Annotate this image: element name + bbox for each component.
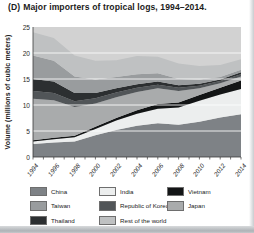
- legend-swatch-republic-of-korea: [99, 201, 116, 211]
- legend-label: Rest of the world: [120, 217, 166, 224]
- legend-item-india: India: [99, 184, 169, 199]
- legend-swatch-japan: [167, 201, 184, 211]
- page-edge-bottom: [0, 226, 254, 233]
- y-tick-label-5: 5: [14, 128, 30, 135]
- legend-swatch-vietnam: [167, 187, 184, 197]
- legend-label: Taiwan: [51, 202, 70, 209]
- textbook-page: (D)Major importers of tropical logs, 199…: [0, 0, 254, 233]
- legend-swatch-india: [99, 187, 116, 197]
- y-tick-label-15: 15: [14, 76, 30, 83]
- y-axis-label: Volume (millions of cubic meters): [4, 35, 11, 150]
- legend-label: Vietnam: [188, 188, 211, 195]
- y-tick-label-10: 10: [14, 102, 30, 109]
- legend-label: India: [120, 188, 133, 195]
- legend-swatch-china: [30, 187, 47, 197]
- legend-item-china: China: [30, 184, 75, 199]
- page-edge-right: [249, 0, 254, 226]
- y-tick-label-20: 20: [14, 50, 30, 57]
- legend-item-republic-of-korea: Republic of Korea: [99, 199, 169, 214]
- legend-item-japan: Japan: [167, 199, 211, 214]
- legend-column-3: VietnamJapan: [167, 184, 211, 213]
- legend-item-taiwan: Taiwan: [30, 199, 75, 214]
- legend-column-2: IndiaRepublic of KoreaRest of the world: [99, 184, 169, 228]
- chart-legend: ChinaTaiwanThailandIndiaRepublic of Kore…: [0, 184, 254, 228]
- y-tick-label-25: 25: [14, 24, 30, 31]
- legend-column-1: ChinaTaiwanThailand: [30, 184, 75, 228]
- legend-label: Japan: [188, 202, 205, 209]
- legend-swatch-taiwan: [30, 201, 47, 211]
- y-tick-label-0: 0: [14, 154, 30, 161]
- legend-label: China: [51, 188, 67, 195]
- legend-swatch-thailand: [30, 216, 47, 226]
- legend-label: Republic of Korea: [120, 202, 169, 209]
- legend-swatch-rest-of-the-world: [99, 216, 116, 226]
- legend-item-vietnam: Vietnam: [167, 184, 211, 199]
- legend-label: Thailand: [51, 217, 75, 224]
